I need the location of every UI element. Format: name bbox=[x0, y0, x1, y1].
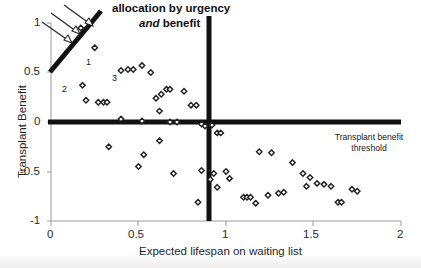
data-point bbox=[131, 67, 136, 72]
data-point bbox=[171, 171, 176, 176]
data-point bbox=[300, 171, 305, 176]
data-point bbox=[227, 176, 232, 181]
y-tick-label-neg1: -1 bbox=[30, 214, 40, 226]
data-point bbox=[157, 108, 162, 113]
data-point bbox=[139, 63, 144, 68]
data-point bbox=[276, 191, 281, 196]
x-tick-label-1: 1 bbox=[222, 228, 228, 240]
data-point bbox=[118, 68, 123, 73]
data-point bbox=[141, 152, 146, 157]
x-tick-label-2: 2 bbox=[397, 228, 403, 240]
x-tick-label-0: 0 bbox=[47, 228, 53, 240]
data-point bbox=[215, 185, 220, 190]
data-point bbox=[106, 144, 111, 149]
allocation-diagonal-line bbox=[50, 11, 101, 72]
y-axis-title: Transplant Benefit bbox=[16, 85, 28, 178]
data-point bbox=[290, 160, 295, 165]
y-tick-label-1: 1 bbox=[34, 16, 40, 28]
data-point bbox=[157, 138, 162, 143]
data-point bbox=[314, 181, 319, 186]
x-axis-ticks bbox=[51, 221, 401, 226]
data-point bbox=[211, 171, 216, 176]
x-tick-label-0.5: 0.5 bbox=[128, 228, 144, 240]
allocation-callout-line1: allocation by urgency bbox=[112, 2, 230, 16]
data-point bbox=[265, 193, 270, 198]
data-point bbox=[328, 184, 333, 189]
data-point bbox=[281, 190, 286, 195]
data-point bbox=[148, 70, 153, 75]
data-point bbox=[223, 169, 228, 174]
data-point bbox=[181, 89, 186, 94]
data-point bbox=[195, 199, 200, 204]
data-point bbox=[253, 200, 258, 205]
data-point bbox=[83, 98, 88, 103]
data-point bbox=[304, 184, 309, 189]
data-point bbox=[199, 168, 204, 173]
data-points-layer bbox=[78, 25, 360, 206]
x-axis-title: Expected lifespan on waiting list bbox=[139, 245, 302, 257]
data-point bbox=[153, 96, 158, 101]
data-point bbox=[321, 182, 326, 187]
data-point bbox=[80, 83, 85, 88]
threshold-callout-line2: threshold bbox=[324, 143, 414, 153]
point-label-2: 2 bbox=[62, 84, 67, 94]
data-point bbox=[92, 45, 97, 50]
allocation-callout-and: and bbox=[139, 17, 159, 29]
data-point bbox=[159, 92, 164, 97]
point-label-1: 1 bbox=[86, 57, 91, 67]
allocation-callout-benefit-word: benefit bbox=[163, 17, 201, 29]
y-tick-label-0: 0 bbox=[34, 115, 40, 127]
data-point bbox=[136, 164, 141, 169]
transplant-benefit-scatter-chart: 1 0.5 0 -0.5 -1 0 0.5 1 1.5 2 Expected l… bbox=[0, 0, 421, 268]
data-point bbox=[269, 150, 274, 155]
data-point bbox=[257, 149, 262, 154]
x-tick-label-1.5: 1.5 bbox=[303, 228, 319, 240]
data-point bbox=[194, 102, 199, 107]
threshold-callout-line1: Transplant benefit bbox=[324, 132, 414, 142]
allocation-callout-line2: and benefit bbox=[139, 17, 200, 31]
data-point bbox=[307, 175, 312, 180]
y-tick-label-0.5: 0.5 bbox=[24, 65, 40, 77]
point-label-3: 3 bbox=[112, 73, 117, 83]
